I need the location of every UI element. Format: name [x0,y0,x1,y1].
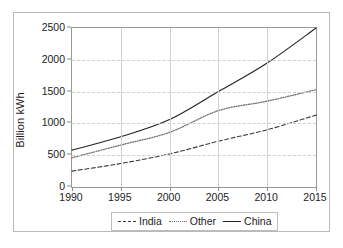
y-tick-label: 2500 [42,21,65,33]
vertical-gridline [267,28,268,187]
plot-area [71,27,317,188]
legend-item-other[interactable]: Other [169,215,216,227]
y-tick-label: 2000 [42,53,65,65]
vertical-gridline [121,28,122,187]
vertical-gridline [218,28,219,187]
legend-label: India [139,215,162,227]
legend-label: Other [190,215,216,227]
legend-label: China [244,215,271,227]
x-tick-label: 1990 [59,191,82,203]
y-tick-label: 1500 [42,85,65,97]
y-tick-label: 500 [47,148,65,160]
x-tick-label: 1995 [108,191,131,203]
legend-swatch-dashed-icon [118,218,136,224]
chart-figure: Billion kWh 05001000150020002500 1990199… [13,12,330,232]
x-axis-tick-labels: 199019952000200520102015 [71,191,315,207]
horizontal-gridline [72,92,316,93]
series-lines [72,28,316,187]
x-tick-label: 2015 [303,191,326,203]
vertical-gridline [170,28,171,187]
y-axis-title: Billion kWh [11,55,29,185]
chart-legend: IndiaOtherChina [111,212,278,231]
series-line-china [72,28,316,150]
legend-item-china[interactable]: China [223,215,271,227]
horizontal-gridline [72,123,316,124]
legend-item-india[interactable]: India [118,215,162,227]
y-tick-label: 1000 [42,116,65,128]
legend-swatch-solid-icon [223,218,241,224]
x-tick-label: 2000 [157,191,180,203]
horizontal-gridline [72,155,316,156]
legend-swatch-dotted-icon [169,218,187,224]
x-tick-label: 2005 [206,191,229,203]
y-axis-title-text: Billion kWh [14,92,26,148]
x-tick-label: 2010 [255,191,278,203]
horizontal-gridline [72,60,316,61]
